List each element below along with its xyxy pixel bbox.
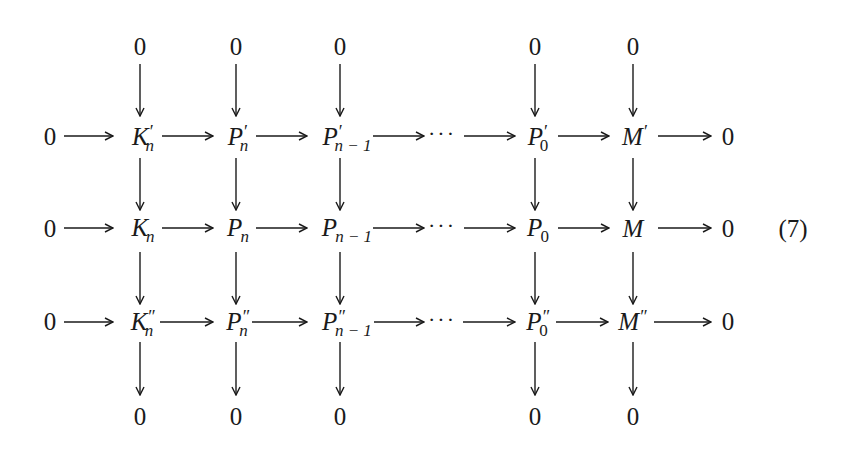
node-subscript: n (145, 321, 154, 340)
node-base: M (622, 123, 643, 150)
node-K-n: Kn (131, 215, 154, 245)
horizontal-arrows (64, 136, 711, 322)
bottom-zero-4: 0 (529, 404, 542, 429)
node-K-double-prime-n: K″n (131, 308, 154, 339)
top-zero-1: 0 (134, 34, 147, 59)
node-P-prime-n-minus-1: P′n − 1 (322, 123, 371, 154)
top-zero-5: 0 (627, 34, 640, 59)
node-subscript: n − 1 (335, 227, 372, 246)
node-prime: ′ (644, 122, 648, 142)
node-base: M (618, 308, 639, 335)
ellipsis-row1: ··· (428, 121, 456, 147)
node-base: M (623, 215, 644, 242)
node-P-prime-n: P′n (228, 123, 249, 154)
bottom-zero-1: 0 (134, 404, 147, 429)
node-P-prime-0: P′0 (528, 123, 549, 154)
node-subscript: n (240, 136, 249, 155)
node-subscript: 0 (540, 136, 549, 155)
bottom-zero-3: 0 (334, 404, 347, 429)
top-zero-3: 0 (334, 34, 347, 59)
node-subscript: n − 1 (335, 321, 372, 340)
node-subscript: n (146, 136, 155, 155)
ellipsis-row3: ··· (428, 307, 456, 333)
node-M-double-prime: M″ (618, 308, 647, 334)
equation-number: (7) (778, 215, 807, 243)
row1-right-zero: 0 (722, 124, 735, 149)
vertical-arrows (140, 64, 633, 395)
node-P-0: P0 (527, 215, 549, 245)
node-subscript: n − 1 (335, 136, 372, 155)
row1-left-zero: 0 (44, 124, 57, 149)
top-zero-2: 0 (230, 34, 243, 59)
row2-left-zero: 0 (44, 216, 57, 241)
node-subscript: n (239, 321, 248, 340)
node-subscript: n (240, 227, 249, 246)
node-M: M (623, 216, 644, 241)
node-P-n-minus-1: Pn − 1 (322, 215, 372, 245)
row3-left-zero: 0 (44, 309, 57, 334)
top-zero-4: 0 (529, 34, 542, 59)
bottom-zero-2: 0 (230, 404, 243, 429)
commutative-diagram: 0 0 0 0 0 0 K′n P′n P′n − 1 ··· P′0 M′ 0… (0, 0, 852, 454)
node-P-double-prime-0: P″0 (526, 308, 547, 339)
node-subscript: 0 (539, 321, 548, 340)
node-subscript: n (146, 227, 155, 246)
node-P-n: Pn (227, 215, 249, 245)
node-double-prime: ″ (640, 307, 648, 327)
bottom-zero-5: 0 (627, 404, 640, 429)
node-P-double-prime-n: P″n (226, 308, 247, 339)
ellipsis-row2: ··· (428, 213, 456, 239)
row3-right-zero: 0 (722, 309, 735, 334)
node-P-double-prime-n-minus-1: P″n − 1 (322, 308, 372, 339)
row2-right-zero: 0 (722, 216, 735, 241)
node-K-prime-n: K′n (132, 123, 154, 154)
node-M-prime: M′ (622, 123, 648, 149)
node-subscript: 0 (540, 227, 549, 246)
